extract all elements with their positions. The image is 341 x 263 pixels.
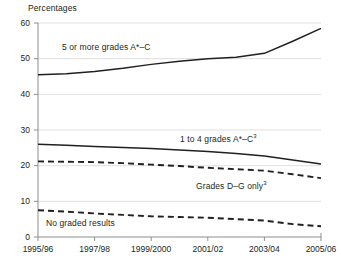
- y-tick-label: 40: [10, 89, 30, 99]
- series-line-1: [38, 144, 321, 164]
- y-tick-label: 10: [10, 196, 30, 206]
- x-tick-marks: [38, 237, 321, 241]
- y-tick-label: 30: [10, 125, 30, 135]
- x-tick-label: 2003/04: [234, 244, 294, 254]
- label-no-graded: No graded results: [46, 218, 115, 228]
- y-tick-label: 60: [10, 18, 30, 28]
- y-tick-label: 20: [10, 160, 30, 170]
- label-1-to-4: 1 to 4 grades A*–C3: [180, 134, 257, 144]
- label-grades-dg: Grades D–G only3: [196, 181, 267, 191]
- x-tick-label: 2005/06: [291, 244, 341, 254]
- series-line-2: [38, 161, 321, 178]
- y-tick-label: 0: [10, 232, 30, 242]
- x-tick-label: 1997/98: [65, 244, 125, 254]
- y-tick-marks: [34, 23, 38, 237]
- data-series-group: [38, 28, 321, 226]
- y-tick-label: 50: [10, 53, 30, 63]
- x-tick-label: 1999/2000: [121, 244, 181, 254]
- x-tick-label: 2001/02: [178, 244, 238, 254]
- label-5-or-more: 5 or more grades A*–C: [62, 42, 151, 52]
- x-tick-label: 1995/96: [8, 244, 68, 254]
